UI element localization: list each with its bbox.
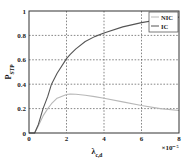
legend-label-ic: IC <box>161 23 169 30</box>
x-tick-label: 8 <box>177 135 181 143</box>
x-axis-label-sub: c,d <box>96 152 103 158</box>
y-tick-label: 0.2 <box>17 105 26 113</box>
x-axis-label: λc,d <box>92 147 103 158</box>
y-tick-label: 0.6 <box>17 56 26 64</box>
x-tick-label: 0 <box>27 135 31 143</box>
legend: NIC IC <box>149 12 178 32</box>
x-tick-label: 4 <box>102 135 106 143</box>
x-axis-multiplier: ×10⁻⁵ <box>161 144 178 152</box>
line-chart: 02468 00.20.40.60.81 λc,d ×10⁻⁵ PSTP NIC… <box>0 0 188 165</box>
y-tick-label: 0.4 <box>17 81 26 89</box>
x-tick-label: 6 <box>140 135 144 143</box>
y-tick-label: 0.8 <box>17 32 26 40</box>
x-tick-label: 2 <box>65 135 69 143</box>
y-axis-label: PSTP <box>4 64 15 80</box>
y-tick-labels: 00.20.40.60.81 <box>17 8 26 138</box>
y-tick-label: 0 <box>23 130 27 138</box>
legend-label-nic: NIC <box>161 14 173 21</box>
y-axis-label-sub: STP <box>9 64 15 75</box>
x-tick-labels: 02468 <box>27 135 181 143</box>
y-tick-label: 1 <box>23 8 27 16</box>
